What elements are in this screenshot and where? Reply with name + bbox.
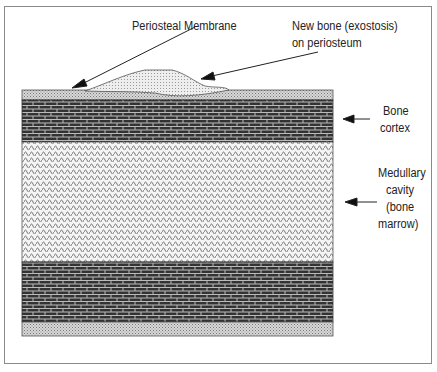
periosteum-bottom-layer <box>22 322 333 336</box>
medullary-cavity-layer <box>22 142 333 262</box>
label-medullary-line1: Medullary <box>378 165 426 181</box>
label-new-bone-line1: New bone (exostosis) <box>292 18 398 34</box>
label-bone-cortex-line2: cortex <box>380 120 410 136</box>
label-medullary-line2: cavity <box>386 182 414 198</box>
cortex-arrowhead-icon <box>343 115 354 123</box>
periosteal-arrowhead-icon <box>72 79 87 88</box>
bone-cortex-bottom-layer <box>22 262 333 322</box>
new-bone-arrowhead-icon <box>201 72 215 80</box>
medullary-arrowhead-icon <box>345 198 357 206</box>
label-bone-cortex-line1: Bone <box>383 103 409 119</box>
label-medullary-line4: marrow) <box>378 216 418 232</box>
new-bone-arrow-line <box>212 52 318 76</box>
label-medullary-line3: (bone <box>386 199 414 215</box>
label-new-bone-line2: on periosteum <box>292 35 362 51</box>
bone-diagram <box>0 0 437 372</box>
label-periosteal-membrane: Periosteal Membrane <box>132 18 237 34</box>
bone-cortex-top-layer <box>22 100 333 142</box>
